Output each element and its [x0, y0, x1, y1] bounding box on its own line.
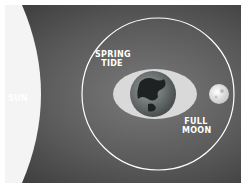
full-moon-label: FULL MOON	[182, 117, 210, 135]
spring-tide-label: SPRING TIDE	[95, 50, 129, 68]
sun-label: SUN	[8, 94, 28, 103]
full-moon	[209, 84, 229, 104]
spring-tide-diagram	[0, 0, 248, 187]
earth	[130, 71, 176, 117]
